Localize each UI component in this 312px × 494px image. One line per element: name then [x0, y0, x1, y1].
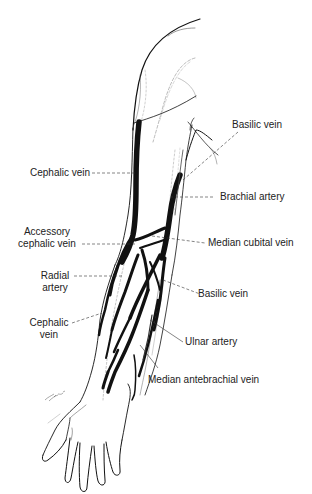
label-cephalic-vein-upper: Cephalic vein: [30, 167, 90, 179]
label-accessory-cephalic-vein-line2: cephalic vein: [14, 238, 80, 250]
label-basilic-vein-upper: Basilic vein: [232, 119, 282, 131]
label-cephalic-vein-lower-line1: Cephalic: [28, 317, 70, 329]
label-ulnar-artery: Ulnar artery: [185, 336, 237, 348]
leader-basilic-vein-lower: [163, 280, 200, 294]
arm-outline: [42, 19, 218, 492]
label-radial-artery: Radial artery: [38, 270, 72, 294]
leader-lines: [72, 132, 238, 368]
label-basilic-vein-lower: Basilic vein: [198, 288, 248, 300]
label-median-cubital-vein: Median cubital vein: [208, 237, 294, 249]
vessels: [99, 118, 212, 400]
label-cephalic-vein-lower: Cephalic vein: [28, 317, 70, 341]
label-cephalic-vein-lower-line2: vein: [28, 329, 70, 341]
label-brachial-artery: Brachial artery: [220, 191, 284, 203]
artist-signature: [45, 391, 65, 401]
label-median-antebrachial-vein: Median antebrachial vein: [148, 374, 259, 386]
label-radial-artery-line1: Radial: [38, 270, 72, 282]
radial-artery: [112, 255, 138, 330]
cephalic-vein-lower: [99, 265, 118, 335]
leader-cephalic-vein-lower: [72, 313, 102, 323]
median-cubital-vein: [135, 228, 165, 240]
median-antebrachial-vein: [108, 290, 148, 392]
label-accessory-cephalic-vein-line1: Accessory: [14, 226, 80, 238]
label-radial-artery-line2: artery: [38, 282, 72, 294]
label-accessory-cephalic-vein: Accessory cephalic vein: [14, 226, 80, 250]
